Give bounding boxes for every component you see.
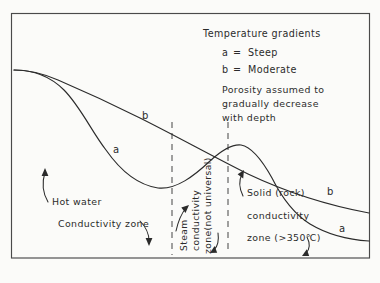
legend-entry-a-label: Steep: [248, 47, 278, 58]
legend-note-line-2: gradually decrease: [222, 98, 319, 109]
legend-entry-b-key: b: [222, 64, 229, 75]
steam-zone-label-line-3: zone(not universal): [202, 157, 213, 254]
curve-label-a-right: a: [339, 223, 346, 234]
legend-note-line-1: Porosity assumed to: [222, 84, 324, 95]
solid-rock-zone-label-line-3: zone (>350℃): [247, 232, 321, 243]
solid-rock-zone-label-line-2: conductivity: [247, 210, 309, 221]
steam-zone-label-line-2: conductivity: [190, 190, 201, 251]
legend-entry-a-equals: =: [233, 47, 241, 58]
diagram-canvas: b a b a Temperature gradients a = Steep …: [0, 0, 380, 283]
legend-title: Temperature gradients: [202, 28, 321, 39]
legend-entry-b-label: Moderate: [248, 64, 297, 75]
hot-water-zone-arrowhead-down: [146, 238, 153, 246]
steam-zone-label-line-1: Steam: [178, 219, 189, 251]
hot-water-zone-label-line-1: Hot water: [52, 196, 102, 207]
curve-label-b-upper: b: [142, 110, 149, 121]
curve-label-b-right: b: [327, 186, 334, 197]
steam-zone-arrowhead-up: [181, 205, 189, 213]
legend-entry-a-key: a: [222, 47, 228, 58]
legend-entry-b-equals: =: [233, 64, 241, 75]
curve-label-a-left: a: [113, 144, 120, 155]
legend-note-line-3: with depth: [222, 112, 276, 123]
hot-water-zone-arrow-up: [43, 172, 48, 202]
solid-rock-zone-label-line-1: Solid (rock): [247, 187, 305, 198]
hot-water-zone-label-line-2: Conductivity zone: [58, 218, 149, 229]
hot-water-zone-arrowhead-up: [42, 168, 49, 176]
